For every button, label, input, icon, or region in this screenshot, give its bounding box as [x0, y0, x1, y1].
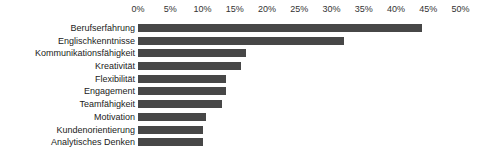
bar-track	[138, 113, 206, 121]
bar-fill	[138, 24, 422, 32]
bar-category-label: Motivation	[94, 111, 135, 124]
x-axis-tick-label: 5%	[164, 4, 177, 14]
bar-track	[138, 49, 246, 57]
bar-row: Teamfähigkeit	[0, 98, 483, 111]
bar-fill	[138, 49, 246, 57]
bar-row: Motivation	[0, 111, 483, 124]
bar-fill	[138, 138, 203, 146]
bar-track	[138, 75, 226, 83]
bar-category-label: Kreativität	[95, 60, 135, 73]
x-axis-tick-label: 10%	[193, 4, 211, 14]
bar-track	[138, 24, 422, 32]
bar-fill	[138, 37, 344, 45]
bar-row: Engagement	[0, 85, 483, 98]
bar-category-label: Englischkenntnisse	[58, 35, 135, 48]
bar-fill	[138, 113, 206, 121]
x-axis-tick-label: 25%	[290, 4, 308, 14]
bar-category-label: Teamfähigkeit	[79, 98, 135, 111]
bar-track	[138, 87, 226, 95]
bar-category-label: Kundenorientierung	[56, 124, 135, 137]
bar-category-label: Berufserfahrung	[70, 22, 135, 35]
x-axis-tick-label: 50%	[451, 4, 469, 14]
bar-row: Flexibilität	[0, 73, 483, 86]
bar-category-label: Analytisches Denken	[51, 136, 135, 149]
x-axis-tick-label: 15%	[226, 4, 244, 14]
bar-category-label: Engagement	[84, 85, 135, 98]
bar-track	[138, 37, 344, 45]
bar-category-label: Kommunikationsfähigkeit	[35, 47, 135, 60]
bar-row: Berufserfahrung	[0, 22, 483, 35]
bar-chart: 0%5%10%15%20%25%30%35%40%45%50% Berufser…	[0, 0, 483, 164]
bar-row: Kreativität	[0, 60, 483, 73]
bar-fill	[138, 87, 226, 95]
bar-fill	[138, 126, 203, 134]
bar-fill	[138, 62, 241, 70]
bar-row: Kundenorientierung	[0, 124, 483, 137]
x-axis-tick-label: 45%	[419, 4, 437, 14]
bar-row: Englischkenntnisse	[0, 35, 483, 48]
x-axis-tick-label: 0%	[131, 4, 144, 14]
x-axis-tick-label: 20%	[258, 4, 276, 14]
bar-fill	[138, 100, 222, 108]
bar-row: Kommunikationsfähigkeit	[0, 47, 483, 60]
x-axis-tick-label: 30%	[322, 4, 340, 14]
x-axis-tick-label: 35%	[355, 4, 373, 14]
bar-fill	[138, 75, 226, 83]
bar-track	[138, 100, 222, 108]
bar-track	[138, 138, 203, 146]
plot-area: BerufserfahrungEnglischkenntnisseKommuni…	[0, 22, 483, 164]
bar-row: Analytisches Denken	[0, 136, 483, 149]
bar-track	[138, 126, 203, 134]
bar-category-label: Flexibilität	[95, 73, 135, 86]
x-axis: 0%5%10%15%20%25%30%35%40%45%50%	[0, 0, 483, 22]
bar-track	[138, 62, 241, 70]
x-axis-tick-label: 40%	[387, 4, 405, 14]
